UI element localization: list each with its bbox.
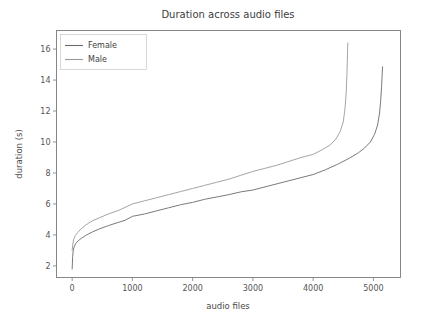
duration-line-chart: Duration across audio files 246810121416… [0,0,421,320]
y-tick-label: 16 [40,45,50,54]
y-tick-label: 14 [40,76,50,85]
legend-label-male: Male [88,55,107,64]
legend-background [61,35,147,70]
x-tick-label: 5000 [363,284,383,293]
y-axis-label: duration (s) [14,129,24,179]
x-tick-label: 0 [70,284,75,293]
x-tick-label: 3000 [243,284,263,293]
x-axis-label: audio files [206,301,250,311]
y-tick-label: 4 [45,231,50,240]
x-tick-label: 4000 [303,284,323,293]
chart-figure: Duration across audio files 246810121416… [0,0,421,320]
x-tick-label: 2000 [182,284,202,293]
chart-legend[interactable]: FemaleMale [61,35,147,70]
y-tick-label: 8 [45,169,50,178]
y-tick-label: 10 [40,138,50,147]
y-tick-label: 6 [45,200,50,209]
y-tick-label: 2 [45,262,50,271]
x-tick-label: 1000 [122,284,142,293]
y-tick-label: 12 [40,107,50,116]
legend-label-female: Female [88,41,117,50]
chart-title: Duration across audio files [161,9,294,20]
